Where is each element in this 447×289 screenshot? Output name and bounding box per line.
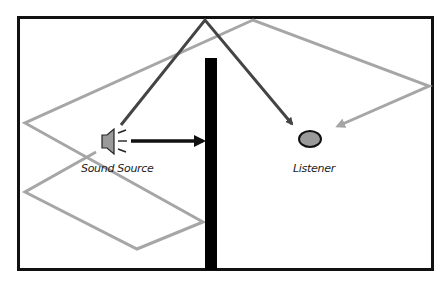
sound-reflection-diagram (0, 0, 447, 289)
sound-source-label: Sound Source (81, 162, 154, 175)
listener-icon (299, 131, 321, 147)
wall (205, 58, 217, 270)
listener-label: Listener (293, 162, 335, 175)
room-frame (19, 18, 433, 270)
